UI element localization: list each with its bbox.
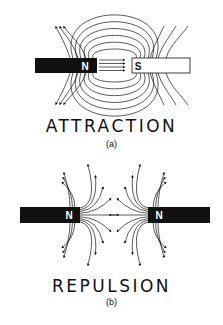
field-loop-top <box>88 42 140 58</box>
field-line-open <box>158 26 176 58</box>
field-line-diverging <box>80 222 92 265</box>
field-line-diverging <box>153 183 165 207</box>
field-line-open <box>158 73 176 105</box>
field-loop-top <box>80 29 150 58</box>
field-line-diverging <box>80 176 96 210</box>
repulsion-title: REPULSION <box>0 276 223 296</box>
repulsion-panel: N N <box>20 165 210 265</box>
field-loop-bottom <box>93 73 137 82</box>
field-line-diverging <box>62 223 74 247</box>
repulsion-right-pole-label: N <box>155 210 162 221</box>
repulsion-left-pole-label: N <box>65 210 72 221</box>
attraction-panel: N S <box>35 15 190 116</box>
field-line-diverging <box>132 176 148 210</box>
field-line-diverging <box>136 222 148 265</box>
attraction-gap-lines <box>99 60 124 71</box>
field-loop-bottom <box>80 73 150 102</box>
field-loop-top <box>93 49 137 58</box>
field-line-open <box>166 73 188 105</box>
field-line-diverging <box>80 220 96 254</box>
attraction-title: ATTRACTION <box>0 116 223 136</box>
field-line-diverging <box>153 223 165 247</box>
attraction-north-pole-label: N <box>81 61 88 72</box>
field-line-diverging <box>62 183 74 207</box>
field-loop-top <box>75 22 153 58</box>
field-loop-bottom <box>75 73 153 109</box>
field-line-open <box>166 26 188 58</box>
attraction-sublabel: (a) <box>0 139 223 149</box>
field-loop-bottom <box>88 73 140 89</box>
attraction-south-pole-label: S <box>135 61 142 72</box>
field-line-diverging <box>136 165 148 208</box>
field-line-diverging <box>132 220 148 254</box>
repulsion-sublabel: (b) <box>0 297 223 307</box>
field-line-diverging <box>80 165 92 208</box>
